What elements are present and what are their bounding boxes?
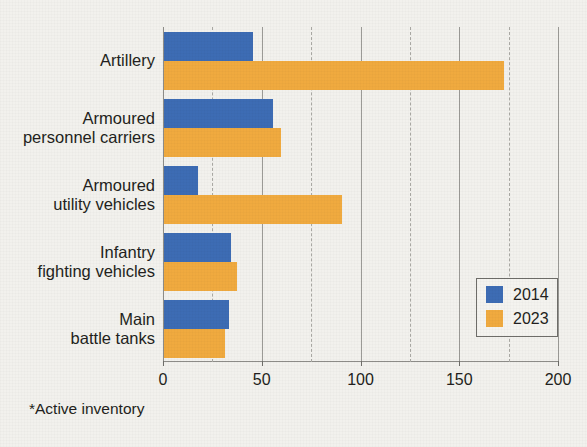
category-label-2: Armoured utility vehicles (0, 176, 155, 214)
bar-2014-3 (164, 233, 231, 262)
bar-2014-1 (164, 99, 273, 128)
x-tick-100 (361, 361, 362, 366)
legend-item-2014[interactable]: 2014 (486, 286, 549, 303)
x-tick-label-150: 150 (446, 371, 473, 389)
category-label-4: Main battle tanks (0, 310, 155, 348)
legend-swatch-2023 (486, 310, 503, 327)
legend-swatch-2014 (486, 286, 503, 303)
chart-legend: 20142023 (476, 278, 558, 337)
category-label-0: Artillery (0, 51, 155, 70)
legend-item-2023[interactable]: 2023 (486, 310, 549, 327)
category-label-1: Armoured personnel carriers (0, 109, 155, 147)
bar-2023-3 (164, 262, 237, 291)
x-tick-150 (459, 361, 460, 366)
category-label-3: Infantry fighting vehicles (0, 243, 155, 281)
chart-container: 2014 and 2023 ArtilleryArmoured personne… (0, 0, 587, 447)
bar-2014-4 (164, 300, 229, 329)
bar-2023-4 (164, 329, 225, 358)
x-tick-50 (262, 361, 263, 366)
bar-2014-2 (164, 166, 198, 195)
gridline-200 (558, 27, 559, 362)
x-tick-label-50: 50 (253, 371, 271, 389)
bar-2023-0 (164, 61, 504, 90)
x-tick-label-200: 200 (545, 371, 572, 389)
chart-title: 2014 and 2023 (33, 0, 151, 5)
legend-label-2014: 2014 (513, 286, 549, 303)
x-tick-0 (163, 361, 164, 366)
bar-2023-2 (164, 195, 342, 224)
legend-label-2023: 2023 (513, 310, 549, 327)
bar-2023-1 (164, 128, 281, 157)
x-tick-label-100: 100 (347, 371, 374, 389)
bar-2014-0 (164, 32, 253, 61)
category-axis-labels: ArtilleryArmoured personnel carriersArmo… (0, 27, 155, 362)
x-tick-200 (558, 361, 559, 366)
x-tick-label-0: 0 (159, 371, 168, 389)
chart-footnote: *Active inventory (29, 400, 144, 418)
